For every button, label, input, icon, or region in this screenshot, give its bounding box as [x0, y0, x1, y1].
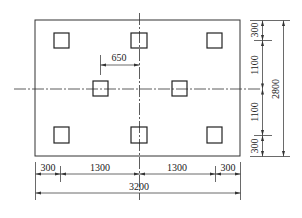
- dim-label-right-1: 300: [249, 23, 260, 38]
- pile-top-right: [207, 33, 222, 48]
- dim-label-650: 650: [112, 52, 127, 63]
- dim-label-right-3: 1100: [249, 102, 260, 122]
- bottom-dimension-chain: 300 1300 1300 300 3200: [36, 162, 241, 200]
- dimension-650: 650: [101, 52, 140, 75]
- dim-label-right-total: 2800: [270, 79, 281, 99]
- pile-middle-right: [172, 81, 187, 96]
- dim-label-bottom-2: 1300: [90, 162, 110, 173]
- dim-label-bottom-3: 1300: [167, 162, 187, 173]
- dim-label-right-2: 1100: [249, 55, 260, 75]
- dim-label-bottom-total: 3200: [129, 181, 149, 192]
- dim-label-bottom-4: 300: [221, 162, 236, 173]
- pile-middle-left: [93, 81, 108, 96]
- pile-bottom-left: [54, 127, 69, 143]
- pile-bottom-center: [131, 127, 147, 143]
- pile-cap-drawing: 650 300 1300 1300 300 3200: [0, 0, 302, 218]
- dim-label-right-4: 300: [249, 139, 260, 154]
- pile-bottom-right: [207, 127, 222, 143]
- pile-top-center: [131, 33, 147, 48]
- pile-top-left: [54, 33, 69, 48]
- dim-label-bottom-1: 300: [41, 162, 56, 173]
- cap-outline: [35, 20, 240, 156]
- right-dimension-chain: 300 1100 1100 300 2800: [249, 21, 290, 157]
